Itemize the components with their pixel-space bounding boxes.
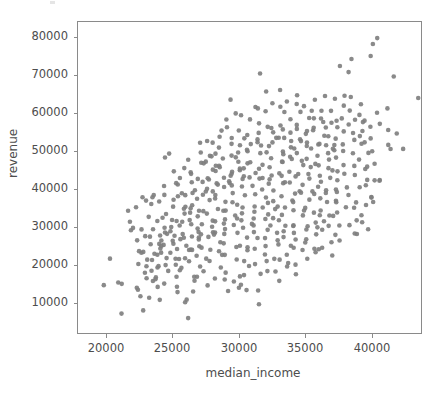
- xtick-mark: [239, 334, 240, 338]
- scatter-points-canvas: [78, 22, 421, 333]
- x-axis-label: median_income: [206, 366, 301, 380]
- scatter-plot-figure: 80000 70000 60000 50000 40000 30000 2000…: [0, 0, 434, 394]
- xtick-label-30000: 30000: [221, 343, 258, 355]
- xtick-mark: [106, 334, 107, 338]
- crop-artifact: [50, 1, 55, 4]
- ytick-label-10000: 10000: [0, 297, 68, 309]
- xtick-label-20000: 20000: [88, 343, 125, 355]
- plot-area: [77, 21, 422, 334]
- xtick-label-35000: 35000: [287, 343, 324, 355]
- xtick-label-25000: 25000: [154, 343, 191, 355]
- ytick-label-40000: 40000: [0, 183, 68, 195]
- xtick-mark: [372, 334, 373, 338]
- ytick-label-70000: 70000: [0, 69, 68, 81]
- ytick-label-80000: 80000: [0, 31, 68, 43]
- y-axis-label: revenue: [6, 128, 20, 177]
- xtick-mark: [305, 334, 306, 338]
- xtick-label-40000: 40000: [354, 343, 391, 355]
- xtick-mark: [172, 334, 173, 338]
- ytick-label-20000: 20000: [0, 259, 68, 271]
- x-axis-label-wrap: median_income: [0, 366, 434, 380]
- ytick-label-30000: 30000: [0, 221, 68, 233]
- ytick-label-60000: 60000: [0, 107, 68, 119]
